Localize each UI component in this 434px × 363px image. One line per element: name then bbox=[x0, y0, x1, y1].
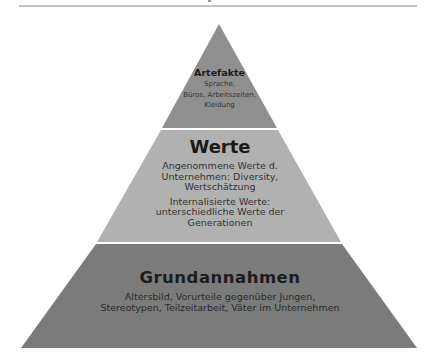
tier-werte-line: unterschiedliche Werte der bbox=[110, 207, 330, 218]
tier-werte-line: Generationen bbox=[110, 218, 330, 229]
tier-grundannahmen-text: Altersbild, Vorurteile gegenüber Jungen,… bbox=[40, 291, 400, 313]
tier-artefakte-line: Kleidung bbox=[162, 100, 277, 111]
tier-artefakte-line: Büros, Arbeitszeiten, bbox=[162, 90, 277, 101]
tier-werte-line: Angenommene Werte d. bbox=[110, 161, 330, 172]
tier-grundannahmen-line: Stereotypen, Teilzeitarbeit, Väter im Un… bbox=[40, 302, 400, 313]
tier-werte-text-internalisiert: Internalisierte Werte: unterschiedliche … bbox=[110, 197, 330, 229]
tier-artefakte: Artefakte Sprache, Büros, Arbeitszeiten,… bbox=[162, 67, 277, 111]
tier-werte-title: Werte bbox=[110, 136, 330, 158]
tier-artefakte-text: Sprache, Büros, Arbeitszeiten, Kleidung bbox=[162, 79, 277, 111]
tier-artefakte-line: Sprache, bbox=[162, 79, 277, 90]
tier-grundannahmen: Grundannahmen Altersbild, Vorurteile geg… bbox=[40, 268, 400, 313]
tier-grundannahmen-line: Altersbild, Vorurteile gegenüber Jungen, bbox=[40, 291, 400, 302]
tier-artefakte-title: Artefakte bbox=[162, 67, 277, 79]
tier-werte-text-angenommen: Angenommene Werte d. Unternehmen: Divers… bbox=[110, 161, 330, 193]
tier-werte-line: Wertschätzung bbox=[110, 182, 330, 193]
tier-werte: Werte Angenommene Werte d. Unternehmen: … bbox=[110, 136, 330, 228]
tier-grundannahmen-title: Grundannahmen bbox=[40, 268, 400, 288]
